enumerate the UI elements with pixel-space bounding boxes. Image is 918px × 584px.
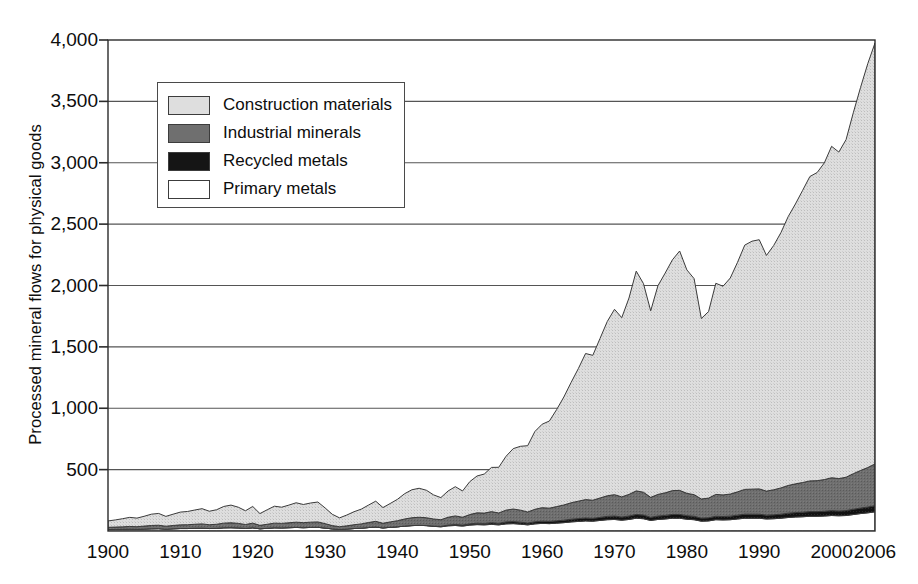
x-axis-tick-1930: 1930 [304, 541, 346, 563]
legend-label: Industrial minerals [223, 123, 361, 143]
x-axis-tick-2000: 2000 [810, 541, 852, 563]
y-axis-tick-marks [99, 40, 108, 470]
x-axis-tick-1960: 1960 [521, 541, 563, 563]
x-axis-tick-2006: 2006 [854, 541, 896, 563]
legend-label: Recycled metals [223, 151, 348, 171]
legend-label: Construction materials [223, 95, 392, 115]
legend-item-recycled-metals: Recycled metals [168, 147, 404, 175]
chart-plot-area [0, 0, 918, 584]
x-axis-tick-1940: 1940 [376, 541, 418, 563]
recycled-metals-swatch [168, 152, 210, 171]
x-axis-tick-1900: 1900 [87, 541, 129, 563]
x-axis-tick-1920: 1920 [232, 541, 274, 563]
industrial-minerals-swatch [168, 124, 210, 143]
chart-legend: Construction materialsIndustrial mineral… [157, 82, 405, 208]
construction-materials-swatch [168, 96, 210, 115]
legend-item-industrial-minerals: Industrial minerals [168, 119, 404, 147]
x-axis-tick-1950: 1950 [449, 541, 491, 563]
x-axis-tick-1990: 1990 [738, 541, 780, 563]
primary-metals-swatch [168, 180, 210, 199]
chart-container: Processed mineral flows for physical goo… [0, 0, 918, 584]
legend-item-construction-materials: Construction materials [168, 91, 404, 119]
legend-label: Primary metals [223, 179, 336, 199]
legend-item-primary-metals: Primary metals [168, 175, 404, 203]
x-axis-tick-1980: 1980 [666, 541, 708, 563]
x-axis-tick-1970: 1970 [593, 541, 635, 563]
x-axis-tick-1910: 1910 [159, 541, 201, 563]
